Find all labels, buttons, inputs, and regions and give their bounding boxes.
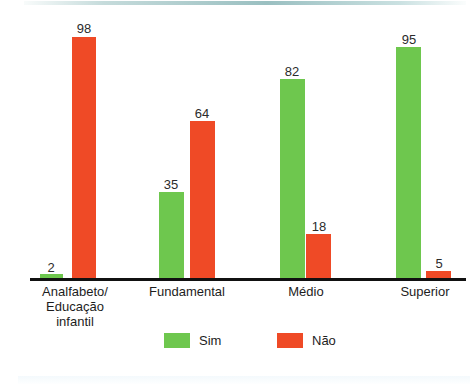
bottom-scan-band bbox=[18, 376, 470, 384]
x-axis-label-3: Superior bbox=[378, 284, 472, 299]
chart-legend: Sim Não bbox=[150, 333, 350, 355]
legend-label-sim: Sim bbox=[199, 333, 221, 348]
chart-figure: 2 98 35 64 82 18 95 5 Analfabeto/ Educaç… bbox=[0, 0, 476, 392]
bar-nao-3 bbox=[426, 271, 451, 278]
bar-sim-3 bbox=[396, 47, 421, 278]
legend-item-sim: Sim bbox=[164, 333, 221, 348]
bar-sim-1 bbox=[159, 192, 184, 278]
bar-sim-2 bbox=[280, 79, 305, 278]
legend-item-nao: Não bbox=[277, 333, 336, 348]
value-label-sim-0: 2 bbox=[32, 261, 70, 275]
value-label-nao-0: 98 bbox=[65, 22, 103, 36]
legend-swatch-sim-icon bbox=[164, 333, 190, 348]
bar-nao-0 bbox=[72, 37, 96, 278]
value-label-sim-2: 82 bbox=[273, 65, 311, 79]
value-label-nao-2: 18 bbox=[300, 220, 338, 234]
legend-label-nao: Não bbox=[312, 333, 336, 348]
x-axis-line bbox=[30, 278, 466, 281]
value-label-nao-1: 64 bbox=[183, 107, 221, 121]
bar-nao-1 bbox=[190, 121, 215, 278]
x-axis-label-2: Médio bbox=[259, 284, 353, 299]
value-label-sim-3: 95 bbox=[390, 33, 428, 47]
value-label-nao-3: 5 bbox=[420, 257, 458, 271]
bar-nao-2 bbox=[306, 234, 331, 278]
value-label-sim-1: 35 bbox=[152, 178, 190, 192]
legend-swatch-nao-icon bbox=[277, 333, 303, 348]
x-axis-label-0: Analfabeto/ Educação infantil bbox=[16, 284, 134, 329]
x-axis-label-1: Fundamental bbox=[131, 284, 243, 299]
